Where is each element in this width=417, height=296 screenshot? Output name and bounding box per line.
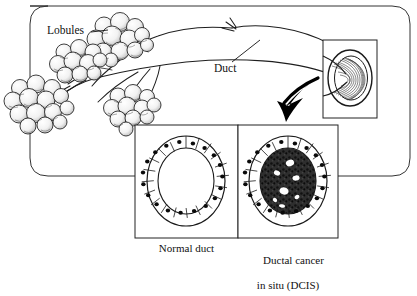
duct-end-inset bbox=[323, 40, 377, 118]
lobules-label: Lobules bbox=[47, 24, 84, 37]
dcis-caption-line2: in situ (DCIS) bbox=[238, 279, 338, 291]
dcis-caption-line1: Ductal cancer bbox=[263, 254, 324, 266]
lobule-cluster-middle bbox=[50, 40, 108, 84]
dcis-caption: Ductal cancer in situ (DCIS) bbox=[238, 242, 338, 296]
normal-duct-caption: Normal duct bbox=[135, 242, 238, 254]
duct-label: Duct bbox=[214, 62, 236, 75]
